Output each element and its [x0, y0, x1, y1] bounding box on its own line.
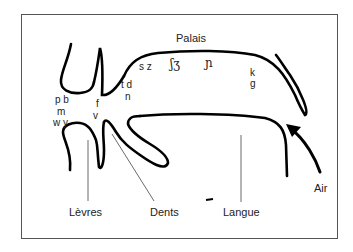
dash-mark — [206, 199, 213, 200]
phoneme-k: k — [250, 68, 255, 78]
phoneme-s-z: s z — [139, 62, 152, 72]
phoneme-w-y: w y — [53, 118, 68, 128]
phoneme-sh-zh: ʃʒ — [170, 59, 180, 69]
phoneme-n: n — [125, 92, 131, 102]
langue-label: Langue — [223, 207, 260, 217]
air-arrow-shaft — [290, 128, 320, 172]
phoneme-f: f — [96, 99, 99, 109]
phoneme-p-b: p b — [55, 95, 69, 105]
upper-tooth-outline — [94, 48, 124, 95]
phoneme-t-d: t d — [121, 80, 132, 90]
phoneme-palatal-nasal: ɲ — [205, 58, 213, 68]
lower-tooth-outline — [104, 116, 168, 167]
palais-label: Palais — [176, 33, 206, 43]
air-label: Air — [314, 183, 327, 193]
upper-lip-outline — [61, 44, 94, 93]
dents-label: Dents — [150, 207, 179, 217]
phoneme-m: m — [57, 107, 65, 117]
phoneme-v: v — [93, 111, 98, 121]
phoneme-g: g — [250, 79, 256, 89]
levres-label: Lèvres — [69, 207, 102, 217]
lower-lip-outline — [63, 122, 104, 170]
